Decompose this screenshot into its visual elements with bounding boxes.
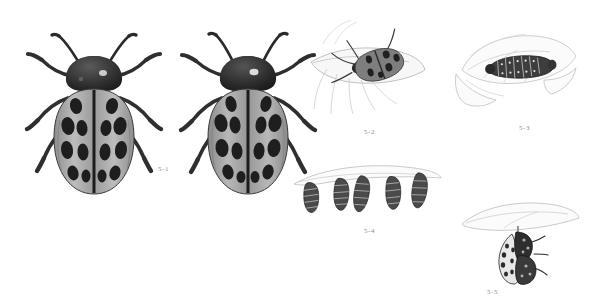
figure-label-5-1: 5-1 [158, 165, 169, 173]
emerging-adult [515, 232, 548, 284]
figure-5-5-emerging-adult [452, 198, 580, 290]
figure-5-2-beetle-on-leaf [305, 14, 430, 124]
beetle-pronotum [66, 56, 122, 92]
figure-label-5-2: 5-2 [364, 128, 375, 136]
figure-5-1-beetle-left [24, 24, 164, 184]
illustration-plate: 5-1 [0, 0, 609, 306]
figure-label-5-3: 5-3 [519, 124, 530, 132]
figure-5-1-beetle-right [178, 24, 318, 184]
figure-5-3-larva-on-leaf [448, 22, 580, 122]
figure-label-5-4: 5-4 [364, 227, 375, 235]
leaf-blade [462, 203, 579, 230]
figure-5-4-pupae-row [292, 162, 442, 224]
beetle-pronotum [220, 56, 276, 92]
figure-label-5-5: 5-5 [487, 288, 498, 296]
